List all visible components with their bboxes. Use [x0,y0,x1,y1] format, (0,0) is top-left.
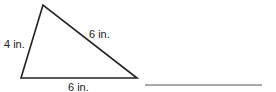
right-side-label: 6 in. [89,28,110,40]
triangle-diagram: 4 in. 6 in. 6 in. [0,0,276,92]
triangle-shape [21,5,137,78]
base-label: 6 in. [68,81,89,92]
left-side-label: 4 in. [4,38,25,50]
